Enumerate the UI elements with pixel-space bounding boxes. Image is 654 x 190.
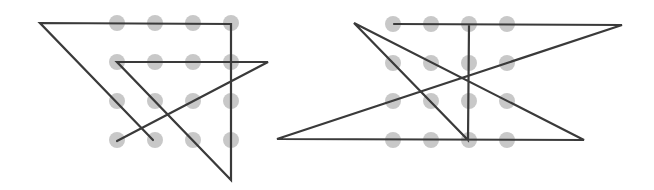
connecting-path (277, 23, 622, 140)
right-puzzle-diagram (0, 0, 654, 190)
diagram-canvas (0, 0, 654, 190)
